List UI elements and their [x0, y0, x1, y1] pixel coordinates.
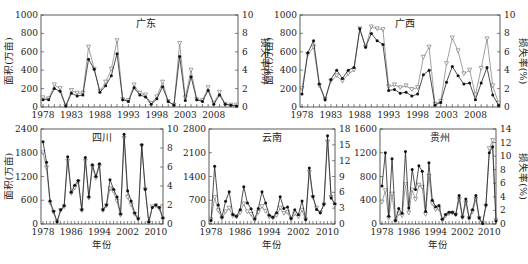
circle-marker	[47, 98, 50, 101]
circle-marker	[201, 100, 204, 103]
y-axis-label: 面积(万亩)	[3, 37, 14, 84]
x-tick-label: 2010	[478, 227, 501, 237]
triangle-marker	[213, 196, 217, 200]
circle-marker	[484, 204, 487, 207]
y-tick-label: 600	[21, 195, 38, 205]
circle-marker	[268, 214, 271, 217]
x-tick-label: 1988	[88, 110, 111, 120]
x-tick-label: 1986	[229, 227, 252, 237]
circle-marker	[324, 98, 327, 101]
y2-axis-label: 损失率(%)	[518, 38, 528, 84]
circle-marker	[458, 194, 461, 197]
chart-panel-guangxi: 1978198319881993199820032008020040060080…	[263, 10, 528, 120]
y-tick-label: 2800	[183, 124, 206, 134]
y-tick-label: 0	[32, 102, 38, 112]
circle-marker	[250, 207, 253, 210]
circle-marker	[167, 100, 170, 103]
circle-marker	[77, 179, 80, 182]
triangle-marker	[58, 87, 62, 91]
circle-marker	[112, 188, 115, 191]
circle-marker	[101, 208, 104, 211]
y2-tick-label: 18	[339, 124, 351, 134]
circle-marker	[341, 77, 344, 80]
circle-marker	[457, 74, 460, 77]
y2-tick-label: 0	[339, 219, 345, 229]
circle-marker	[293, 208, 296, 211]
circle-marker	[497, 104, 500, 107]
circle-marker	[84, 156, 87, 159]
circle-marker	[59, 208, 62, 211]
circle-marker	[151, 206, 154, 209]
y-tick-label: 1600	[354, 124, 377, 134]
y-tick-label: 1000	[274, 10, 297, 20]
y-tick-label: 2400	[15, 124, 38, 134]
circle-marker	[478, 217, 481, 220]
circle-marker	[394, 219, 397, 222]
y2-tick-label: 8	[500, 165, 506, 175]
circle-marker	[137, 217, 140, 220]
x-tick-label: 2010	[316, 227, 339, 237]
circle-marker	[150, 103, 153, 106]
y2-tick-label: 10	[504, 10, 516, 20]
circle-marker	[105, 204, 108, 207]
y2-tick-label: 3	[339, 203, 345, 213]
y-tick-label: 1000	[15, 10, 38, 20]
triangle-marker	[390, 192, 394, 196]
circle-marker	[45, 161, 48, 164]
circle-marker	[468, 82, 471, 85]
circle-marker	[108, 178, 111, 181]
circle-marker	[63, 204, 66, 207]
circle-marker	[315, 208, 318, 211]
x-tick-label: 1993	[117, 110, 140, 120]
circle-marker	[431, 199, 434, 202]
triangle-marker	[427, 45, 431, 49]
circle-marker	[119, 213, 122, 216]
circle-marker	[42, 98, 45, 101]
y2-tick-label: 4	[504, 65, 510, 75]
y2-tick-label: 0	[242, 102, 248, 112]
chart-panel-yunnan: 1978198619942002201007001400210028000369…	[183, 124, 351, 250]
plot-frame	[380, 129, 496, 224]
chart-panel-guangdong: 1978198319881993199820032008020040060080…	[3, 10, 271, 120]
y2-tick-label: 15	[339, 140, 351, 150]
circle-marker	[98, 91, 101, 94]
triangle-marker	[178, 42, 182, 46]
circle-marker	[428, 69, 431, 72]
circle-marker	[471, 208, 474, 211]
circle-marker	[301, 199, 304, 202]
y2-tick-label: 14	[500, 124, 512, 134]
circle-marker	[474, 194, 477, 197]
x-tick-label: 2002	[287, 227, 310, 237]
circle-marker	[462, 83, 465, 86]
circle-marker	[70, 191, 73, 194]
circle-marker	[110, 74, 113, 77]
triangle-marker	[189, 68, 193, 72]
circle-marker	[104, 84, 107, 87]
y2-tick-label: 8	[504, 28, 510, 38]
y-tick-label: 1400	[183, 172, 206, 182]
circle-marker	[481, 222, 484, 225]
chart-title: 广东	[136, 17, 156, 29]
circle-marker	[80, 208, 83, 211]
circle-marker	[381, 185, 384, 188]
triangle-marker	[421, 55, 425, 59]
circle-marker	[87, 58, 90, 61]
circle-marker	[319, 211, 322, 214]
y-tick-label: 400	[21, 65, 38, 75]
chart-title: 贵州	[430, 131, 450, 143]
y-tick-label: 1200	[354, 148, 377, 158]
circle-marker	[147, 221, 150, 224]
y2-tick-label: 4	[242, 65, 248, 75]
triangle-marker	[479, 66, 483, 70]
circle-marker	[297, 213, 300, 216]
y-tick-label: 600	[280, 47, 297, 57]
y2-tick-label: 2	[167, 200, 173, 210]
circle-marker	[253, 217, 256, 220]
chart-panel-guizhou: 1978198619942002201004008001200160002468…	[354, 124, 528, 250]
y2-tick-label: 10	[167, 124, 179, 134]
y-tick-label: 0	[371, 219, 377, 229]
y-axis-label: 面积(万亩)	[263, 37, 274, 84]
circle-marker	[121, 98, 124, 101]
y-tick-label: 400	[360, 195, 377, 205]
circle-marker	[144, 95, 147, 98]
